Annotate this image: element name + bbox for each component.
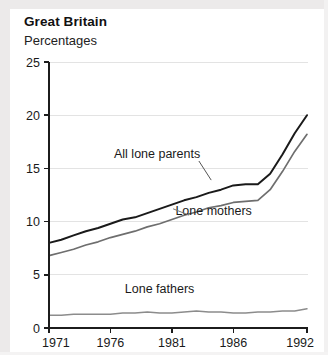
xtick-label-1971: 1971 xyxy=(42,336,70,350)
ytick-label-10: 10 xyxy=(26,215,40,229)
ytick-label-5: 5 xyxy=(33,268,40,282)
series-annotation-lone-mothers: Lone mothers xyxy=(175,204,251,218)
xtick-label-1986: 1986 xyxy=(219,336,247,350)
line-chart-plot: 0510152025 19711976198119861992 All lone… xyxy=(0,0,328,355)
gridlines-group xyxy=(49,62,308,275)
series-annotation-lone-fathers: Lone fathers xyxy=(125,282,195,296)
series-line-all-lone-parents xyxy=(49,115,307,243)
ytick-labels-group: 0510152025 xyxy=(26,56,40,336)
chart-page: Great Britain Percentages 0510152025 197… xyxy=(0,0,328,355)
ytick-label-20: 20 xyxy=(26,109,40,123)
xtick-label-1981: 1981 xyxy=(158,336,186,350)
xtick-label-1992: 1992 xyxy=(286,336,314,350)
ytick-label-0: 0 xyxy=(33,322,40,336)
series-line-lone-fathers xyxy=(49,309,307,315)
xtick-labels-group: 19711976198119861992 xyxy=(42,336,314,350)
ytick-label-25: 25 xyxy=(26,56,40,70)
series-annotation-all-lone-parents: All lone parents xyxy=(114,147,200,161)
xtick-label-1976: 1976 xyxy=(96,336,124,350)
ytick-label-15: 15 xyxy=(26,162,40,176)
leader-line-all-lone-parents xyxy=(199,161,211,180)
